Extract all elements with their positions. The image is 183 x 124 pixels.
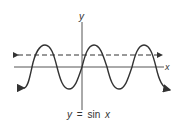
equation-label: y = sin x (66, 109, 111, 120)
x-axis-label: x (164, 62, 170, 72)
sine-graph: y x y = sin x (0, 0, 183, 124)
y-axis-label: y (78, 11, 85, 22)
